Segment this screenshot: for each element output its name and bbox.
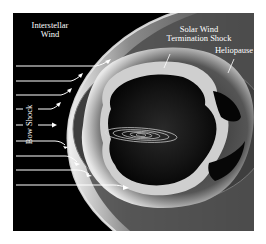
termination-shock-label: Solar Wind Termination Shock	[154, 25, 244, 43]
termination-shock-label-line2: Termination Shock	[154, 34, 244, 43]
heliosphere-diagram: Interstellar Wind Solar Wind Termination…	[13, 13, 254, 231]
interstellar-wind-label: Interstellar Wind	[25, 21, 75, 39]
heliopause-label: Heliopause	[209, 46, 254, 55]
interstellar-wind-label-line2: Wind	[25, 30, 75, 39]
bow-shock-label: Bow Shock	[25, 101, 34, 149]
